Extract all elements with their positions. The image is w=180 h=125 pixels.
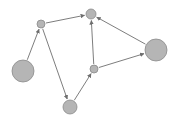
node-E	[90, 65, 98, 73]
edge-E-to-D	[99, 54, 144, 68]
edge-E-to-B	[91, 20, 93, 64]
edge-F-to-E	[74, 74, 91, 101]
edge-A-to-B	[46, 15, 85, 23]
node-C	[12, 60, 34, 82]
node-F	[63, 100, 77, 114]
node-D	[145, 39, 167, 61]
node-A	[37, 20, 45, 28]
node-B	[86, 9, 96, 19]
edge-C-to-A	[27, 29, 39, 60]
edge-A-to-F	[43, 29, 68, 99]
edges-layer	[27, 15, 145, 100]
nodes-layer	[12, 9, 167, 114]
edge-D-to-B	[97, 17, 146, 44]
network-graph	[0, 0, 180, 125]
